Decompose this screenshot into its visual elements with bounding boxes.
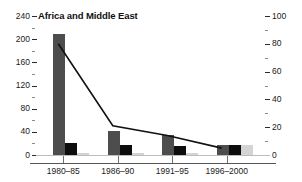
line-series-path <box>58 44 222 148</box>
x-axis-category-label: 1986–90 <box>101 166 134 176</box>
x-axis-category-label: 1996–2000 <box>205 166 248 176</box>
chart-container: Africa and Middle East 04080120160200240… <box>0 0 302 182</box>
x-axis-category-label: 1980–85 <box>47 166 80 176</box>
line-series <box>0 0 302 182</box>
x-axis-labels: 1980–851986–901991–951996–2000 <box>0 166 302 180</box>
x-axis-category-label: 1991–95 <box>156 166 189 176</box>
